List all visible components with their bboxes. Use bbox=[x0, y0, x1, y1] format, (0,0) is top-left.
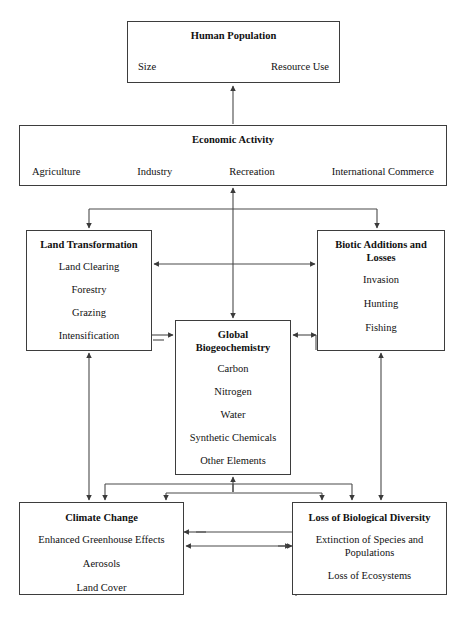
node-item-nitrogen: Nitrogen bbox=[180, 385, 286, 398]
node-item-carbon: Carbon bbox=[180, 362, 286, 375]
node-item-recreation: Recreation bbox=[229, 166, 274, 177]
node-title: Climate Change bbox=[25, 511, 178, 524]
node-item-hunting: Hunting bbox=[324, 297, 438, 310]
node-title: Economic Activity bbox=[32, 133, 434, 146]
node-item-list: Invasion Hunting Fishing bbox=[324, 273, 438, 334]
node-item-water: Water bbox=[180, 408, 286, 421]
node-item-list: Carbon Nitrogen Water Synthetic Chemical… bbox=[180, 362, 286, 467]
node-title: Human Population bbox=[138, 29, 329, 42]
node-item-international-commerce: International Commerce bbox=[332, 166, 434, 177]
node-title: Land Transformation bbox=[33, 238, 145, 251]
node-item-agriculture: Agriculture bbox=[32, 166, 80, 177]
node-item-aerosols: Aerosols bbox=[25, 557, 178, 570]
diagram-canvas: Human Population Size Resource Use Econo… bbox=[0, 0, 466, 617]
node-item-resource-use: Resource Use bbox=[271, 61, 329, 72]
node-item-other-elements: Other Elements bbox=[180, 454, 286, 467]
node-item-synthetic-chemicals: Synthetic Chemicals bbox=[180, 431, 286, 444]
node-loss-of-biological-diversity[interactable]: Loss of Biological Diversity Extinction … bbox=[292, 502, 447, 595]
node-item-invasion: Invasion bbox=[324, 273, 438, 286]
node-item-list: Enhanced Greenhouse Effects Aerosols Lan… bbox=[25, 533, 178, 594]
node-human-population[interactable]: Human Population Size Resource Use bbox=[127, 21, 340, 83]
node-item-grazing: Grazing bbox=[33, 306, 145, 319]
node-biotic-additions-and-losses[interactable]: Biotic Additions and Losses Invasion Hun… bbox=[317, 230, 445, 351]
node-title: Loss of Biological Diversity bbox=[298, 511, 441, 524]
node-item-loss-of-ecosystems: Loss of Ecosystems bbox=[298, 569, 441, 582]
node-item-size: Size bbox=[138, 61, 156, 72]
node-item-list: Land Clearing Forestry Grazing Intensifi… bbox=[33, 260, 145, 342]
node-item-extinction-of-species: Extinction of Species and Populations bbox=[298, 533, 441, 559]
node-item-land-cover: Land Cover bbox=[25, 581, 178, 594]
node-title: Biotic Additions and Losses bbox=[324, 238, 438, 264]
node-title: Global Biogeochemistry bbox=[180, 328, 286, 354]
node-item-land-clearing: Land Clearing bbox=[33, 260, 145, 273]
node-economic-activity[interactable]: Economic Activity Agriculture Industry R… bbox=[19, 125, 447, 186]
node-item-fishing: Fishing bbox=[324, 321, 438, 334]
node-land-transformation[interactable]: Land Transformation Land Clearing Forest… bbox=[26, 230, 152, 351]
node-item-industry: Industry bbox=[137, 166, 172, 177]
node-item-forestry: Forestry bbox=[33, 283, 145, 296]
node-item-list: Extinction of Species and Populations Lo… bbox=[298, 533, 441, 582]
node-global-biogeochemistry[interactable]: Global Biogeochemistry Carbon Nitrogen W… bbox=[175, 320, 291, 475]
node-climate-change[interactable]: Climate Change Enhanced Greenhouse Effec… bbox=[19, 502, 184, 595]
connector-return-to-climate bbox=[196, 532, 296, 596]
node-item-enhanced-greenhouse-effects: Enhanced Greenhouse Effects bbox=[25, 533, 178, 546]
node-item-intensification: Intensification bbox=[33, 329, 145, 342]
